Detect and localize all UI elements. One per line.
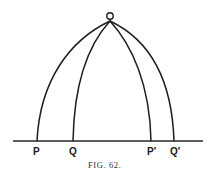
arc-o-to-p-prime xyxy=(110,21,151,141)
label-p-prime: P′ xyxy=(147,146,157,157)
label-p: P xyxy=(33,146,40,157)
figure-62-diagram: O P Q P′ Q′ FIG. 62. xyxy=(0,0,214,179)
label-q-prime: Q′ xyxy=(170,146,181,157)
figure-caption: FIG. 62. xyxy=(88,160,121,170)
label-q: Q xyxy=(69,146,77,157)
arc-o-to-q xyxy=(73,21,110,141)
apex-point-o xyxy=(107,13,113,19)
